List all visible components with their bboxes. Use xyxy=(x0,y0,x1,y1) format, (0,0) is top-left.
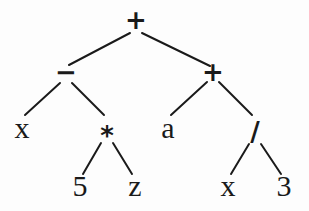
operator-node-n2: + xyxy=(202,57,224,87)
tree-edge-n0-n2 xyxy=(142,33,210,66)
operand-node-n9: x xyxy=(221,169,236,202)
tree-edge-n1-n3 xyxy=(25,83,60,115)
tree-edge-n2-n6 xyxy=(219,82,252,115)
operand-node-n10: 3 xyxy=(277,169,292,202)
tree-edge-n1-n4 xyxy=(72,83,104,115)
operand-node-n5: a xyxy=(161,111,174,144)
operator-node-n6: / xyxy=(250,117,260,147)
tree-edge-n0-n1 xyxy=(69,33,130,65)
operand-node-n7: 5 xyxy=(73,169,88,202)
operator-node-n1: − xyxy=(55,57,77,87)
operator-node-n4: * xyxy=(100,121,114,151)
operand-node-n8: z xyxy=(128,169,141,202)
operand-node-n3: x xyxy=(15,111,30,144)
operator-node-n0: + xyxy=(125,5,147,35)
expression-tree-diagram: +−+x*a/5zx3 xyxy=(0,0,309,211)
